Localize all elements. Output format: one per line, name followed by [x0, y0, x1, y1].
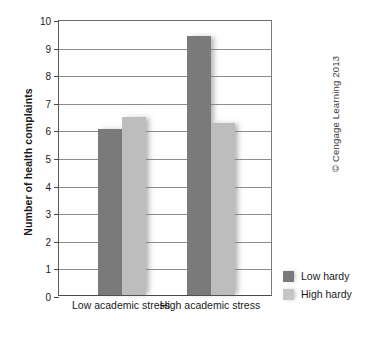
gridline [59, 76, 271, 77]
y-axis-tick [54, 21, 59, 22]
gridline [59, 242, 271, 243]
gridline [59, 49, 271, 50]
y-axis-tick [54, 187, 59, 188]
y-axis-tick [54, 76, 59, 77]
y-axis-tick-label: 0 [45, 292, 51, 303]
gridline [59, 131, 271, 132]
legend-label: High hardy [301, 288, 352, 300]
chart-legend: Low hardyHigh hardy [283, 268, 352, 304]
x-axis-label: Low academic stress [72, 299, 170, 311]
bar-high-hardy-group-2 [211, 123, 235, 296]
legend-swatch-icon [283, 271, 294, 282]
legend-swatch-icon [283, 289, 294, 300]
y-axis-title: Number of health complaints [22, 72, 34, 252]
copyright-notice: © Cengage Learning 2013 [330, 32, 341, 172]
y-axis-tick-label: 3 [45, 209, 51, 220]
y-axis-tick-label: 2 [45, 236, 51, 247]
y-axis-tick-label: 7 [45, 98, 51, 109]
y-axis-tick-label: 4 [45, 181, 51, 192]
y-axis-tick [54, 131, 59, 132]
bar-high-hardy-group-1 [122, 117, 146, 295]
y-axis-tick-label: 9 [45, 43, 51, 54]
x-axis-label: High academic stress [160, 299, 260, 311]
legend-label: Low hardy [301, 270, 349, 282]
y-axis-tick-label: 1 [45, 264, 51, 275]
y-axis-tick [54, 104, 59, 105]
y-axis-tick-label: 6 [45, 126, 51, 137]
bar-chart-figure: Number of health complaints 109876543210… [0, 0, 372, 338]
gridline [59, 187, 271, 188]
y-axis-tick-label: 5 [45, 154, 51, 165]
plot-area: 109876543210 [58, 20, 272, 296]
bar-low-hardy-group-2 [187, 36, 211, 295]
y-axis-tick [54, 269, 59, 270]
y-axis-tick [54, 49, 59, 50]
y-axis-tick-label: 10 [40, 16, 51, 27]
y-axis-tick-label: 8 [45, 71, 51, 82]
legend-item-high-hardy: High hardy [283, 286, 352, 302]
gridline [59, 214, 271, 215]
y-axis-tick [54, 242, 59, 243]
gridline [59, 104, 271, 105]
gridline [59, 159, 271, 160]
y-axis-tick [54, 214, 59, 215]
y-axis-tick [54, 297, 59, 298]
legend-item-low-hardy: Low hardy [283, 268, 352, 284]
bar-low-hardy-group-1 [98, 129, 122, 295]
y-axis-tick [54, 159, 59, 160]
gridline [59, 269, 271, 270]
